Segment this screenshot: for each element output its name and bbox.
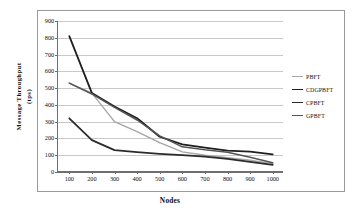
legend-item-cpbft[interactable]: CPBFT [292, 96, 350, 109]
legend-item-pbft[interactable]: PBFT [292, 70, 350, 83]
x-tick-mark [273, 171, 274, 174]
x-tick-label: 1000 [258, 176, 288, 183]
y-tick-label: 300 [14, 119, 58, 125]
y-tick-label: 100 [14, 152, 58, 158]
x-tick-mark [92, 171, 93, 174]
x-tick-mark [160, 171, 161, 174]
legend-swatch-icon [292, 89, 303, 90]
y-tick-label: 700 [14, 51, 58, 57]
x-axis-title: Nodes [57, 196, 283, 205]
legend-swatch-icon [292, 115, 303, 116]
x-tick-mark [205, 171, 206, 174]
y-tick-label: 0 [14, 169, 58, 175]
legend-item-gpbft[interactable]: GPBFT [292, 109, 350, 122]
chart-legend: PBFTCDGPBFTCPBFTGPBFT [292, 70, 350, 122]
y-tick-label: 600 [14, 68, 58, 74]
x-tick-mark [228, 171, 229, 174]
legend-label: GPBFT [306, 113, 325, 119]
legend-swatch-icon [292, 102, 303, 103]
y-tick-label: 500 [14, 85, 58, 91]
x-tick-mark [69, 171, 70, 174]
x-tick-mark [137, 171, 138, 174]
legend-swatch-icon [292, 76, 303, 77]
y-tick-label: 200 [14, 135, 58, 141]
plot-area: 0100200300400500600700800900100200300400… [57, 21, 283, 172]
y-tick-label: 800 [14, 35, 58, 41]
series-lines [58, 21, 284, 172]
y-tick-label: 400 [14, 102, 58, 108]
legend-label: CDGPBFT [306, 87, 333, 93]
legend-label: CPBFT [306, 100, 325, 106]
x-tick-mark [115, 171, 116, 174]
chart-figure: Message Throughput (tps) 010020030040050… [0, 0, 353, 217]
legend-item-cdgpbft[interactable]: CDGPBFT [292, 83, 350, 96]
legend-label: PBFT [306, 74, 320, 80]
x-tick-mark [250, 171, 251, 174]
y-tick-label: 900 [14, 18, 58, 24]
x-tick-mark [182, 171, 183, 174]
y-axis-title-unit: (tps) [21, 21, 35, 172]
series-line-cdgpbft [69, 36, 272, 154]
